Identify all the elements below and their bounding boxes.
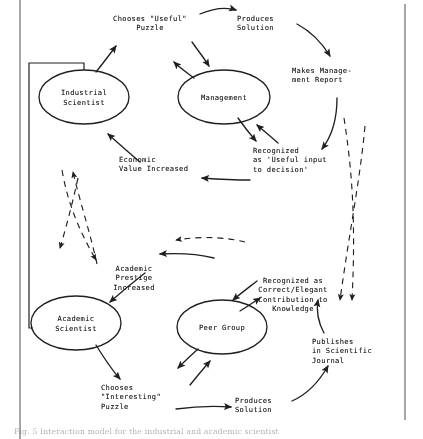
arrow-recognized-to-economic (202, 178, 250, 180)
arrow-chooses-to-management (192, 42, 209, 66)
arrow-report-to-recognized (322, 98, 337, 149)
arrow-academic-to-chooses (96, 345, 120, 379)
dashed-industrial-to-prestige (62, 170, 96, 260)
node-shapes (31, 70, 270, 354)
dashed-recognized-to-prestige-link (176, 238, 245, 242)
figure-caption: Fig. 5 Interaction model for the industr… (14, 427, 414, 436)
label-makes-management-report: Makes Manage- ment Report (292, 66, 392, 85)
label-academic-prestige-increased: Academic Prestige Increased (98, 264, 170, 292)
arrow-management-to-chooses (174, 62, 194, 78)
node-label-management: Management (178, 93, 270, 103)
arrow-chooses-to-peergroup (190, 361, 210, 385)
label-recognized-correct-elegant: Recognized as Correct/Elegant Contributi… (241, 276, 345, 314)
label-chooses-useful-puzzle: Chooses "Useful" Puzzle (102, 14, 198, 33)
label-chooses-interesting-puzzle: Chooses "Interesting" Puzzle (101, 383, 191, 411)
arrow-recognized-to-management (257, 125, 278, 143)
arrow-management-to-recognized (238, 118, 256, 141)
dashed-left-descender (60, 178, 78, 248)
node-label-industrial-scientist: Industrial Scientist (39, 88, 129, 107)
dashed-academic-to-economic (73, 172, 97, 264)
label-economic-value-increased: Economic Value Increased (119, 155, 219, 174)
arrow-industrial-to-chooses (96, 46, 116, 72)
label-publishes-in-scientific-journal: Publishes in Scientific Journal (312, 337, 400, 365)
label-produces-solution-bottom: Produces Solution (235, 396, 305, 415)
node-label-peer-group: Peer Group (177, 323, 267, 333)
arrow-peergroup-to-chooses (178, 349, 198, 368)
interaction-model-figure: Industrial Scientist Management Academic… (0, 0, 423, 439)
label-produces-solution-top: Produces Solution (237, 14, 307, 33)
label-recognized-useful-input: Recognized as 'Useful input to decision' (253, 146, 357, 174)
node-label-academic-scientist: Academic Scientist (31, 314, 121, 333)
arrow-recognized-to-prestige (160, 254, 214, 258)
arrow-chooses-to-produces (200, 8, 236, 14)
